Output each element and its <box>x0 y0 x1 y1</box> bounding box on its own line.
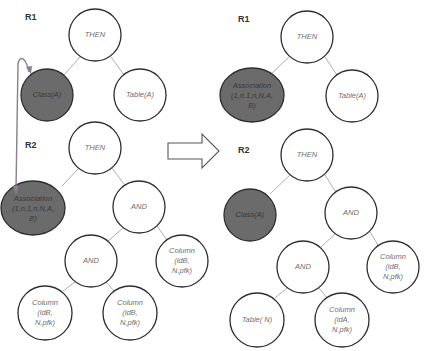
svg-text:N,pfk): N,pfk) <box>120 318 141 327</box>
node-and-lower: AND <box>277 241 329 293</box>
svg-text:(idB,: (idB, <box>37 308 52 317</box>
svg-text:Column: Column <box>32 298 58 307</box>
svg-text:N,pfk): N,pfk) <box>35 318 56 327</box>
svg-text:(idA,: (idA, <box>334 315 349 324</box>
before-r1-tree: R1 THEN Class(A) Table(A) <box>21 9 166 121</box>
svg-text:(idB,: (idB, <box>174 256 189 265</box>
edge <box>370 232 378 245</box>
svg-text:Column: Column <box>329 305 355 314</box>
node-column-bottom-mid: Column (idB, N,pfk) <box>103 286 157 340</box>
svg-text:N,pfk): N,pfk) <box>332 325 353 334</box>
svg-text:AND: AND <box>294 262 311 271</box>
edge <box>112 168 124 184</box>
svg-text:AND: AND <box>342 208 359 217</box>
node-and-upper: AND <box>325 187 377 239</box>
svg-text:Class(A): Class(A) <box>236 210 265 219</box>
edge <box>108 228 123 241</box>
svg-text:(1,n,1,n,N,A,: (1,n,1,n,N,A, <box>12 204 54 213</box>
svg-text:Column: Column <box>380 252 406 261</box>
node-and-upper: AND <box>113 181 165 233</box>
edge <box>157 226 167 240</box>
svg-text:Association: Association <box>232 81 271 90</box>
rule-label-r1: R1 <box>25 12 37 22</box>
svg-text:(idB,: (idB, <box>385 262 400 271</box>
rule-label-r2: R2 <box>238 145 250 155</box>
svg-text:THEN: THEN <box>85 143 106 152</box>
rule-label-r2: R2 <box>25 140 37 150</box>
node-table: Table(A) <box>326 70 378 122</box>
diagram-canvas: R1 THEN Class(A) Table(A) R2 <box>0 0 430 351</box>
edge <box>270 175 290 194</box>
svg-text:THEN: THEN <box>85 30 106 39</box>
svg-text:THEN: THEN <box>297 150 318 159</box>
edge <box>62 168 79 186</box>
node-then: THEN <box>281 11 333 63</box>
edge <box>325 175 335 191</box>
node-column-right: Column (idB, N,pfk) <box>156 235 208 287</box>
node-class-highlighted: Class(A) <box>224 189 276 241</box>
edge <box>319 288 327 298</box>
svg-text:Table(A): Table(A) <box>126 90 155 99</box>
svg-text:THEN: THEN <box>297 32 318 41</box>
node-then: THEN <box>69 122 121 174</box>
after-panel: R1 THEN Association (1,n,1,n,N,A, B) Tab… <box>220 11 419 347</box>
after-r1-tree: R1 THEN Association (1,n,1,n,N,A, B) Tab… <box>220 11 378 122</box>
svg-text:N,pfk): N,pfk) <box>383 272 404 281</box>
node-column-bottom-left: Column (idB, N,pfk) <box>18 286 72 340</box>
node-and-lower: AND <box>65 235 117 287</box>
svg-text:(idB,: (idB, <box>122 308 137 317</box>
before-panel: R1 THEN Class(A) Table(A) R2 <box>1 9 208 340</box>
svg-text:B): B) <box>248 101 256 110</box>
edge <box>270 57 289 75</box>
node-class-highlighted: Class(A) <box>21 69 73 121</box>
svg-text:Table( N): Table( N) <box>242 315 273 324</box>
svg-text:(1,n,1,n,N,A,: (1,n,1,n,N,A, <box>231 91 273 100</box>
svg-text:B): B) <box>29 214 37 223</box>
edge <box>325 57 337 75</box>
edge <box>63 282 75 291</box>
node-table: Table(A) <box>114 69 166 121</box>
transform-arrow-icon <box>168 134 219 168</box>
node-table-bottom: Table( N) <box>230 293 284 347</box>
after-r2-tree: R2 THEN Class(A) AND AND <box>224 129 419 347</box>
svg-text:Association: Association <box>13 194 52 203</box>
svg-text:Column: Column <box>169 246 195 255</box>
node-then: THEN <box>281 129 333 181</box>
node-column-bottom: Column (idA, N,pfk) <box>315 293 369 347</box>
svg-text:Class(A): Class(A) <box>33 90 62 99</box>
edge <box>106 282 114 291</box>
edge <box>64 57 80 75</box>
svg-text:N,pfk): N,pfk) <box>172 266 193 275</box>
svg-text:Column: Column <box>117 298 143 307</box>
edge <box>275 288 287 298</box>
rule-label-r1: R1 <box>238 14 250 24</box>
edge <box>111 57 124 75</box>
edge <box>321 234 335 247</box>
node-column-right: Column (idB, N,pfk) <box>367 241 419 293</box>
node-association-highlighted: Association (1,n,1,n,N,A, B) <box>1 181 65 235</box>
node-then: THEN <box>69 9 121 61</box>
node-association-highlighted: Association (1,n,1,n,N,A, B) <box>220 68 284 122</box>
svg-text:Table(A): Table(A) <box>338 91 367 100</box>
svg-text:AND: AND <box>130 202 147 211</box>
svg-text:AND: AND <box>82 256 99 265</box>
